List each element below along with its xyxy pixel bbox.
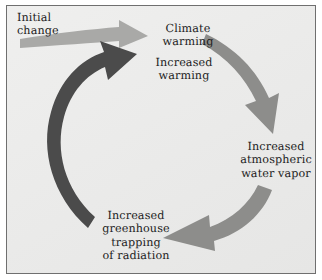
node-label-initial-change: Initial change (17, 11, 59, 38)
climate-feedback-diagram: Initial change Climate warming Increased… (0, 0, 322, 280)
warming-to-water-vapor-arrow (202, 34, 279, 134)
node-label-atmospheric-water-vapor: Increased atmospheric water vapor (236, 140, 316, 180)
node-label-greenhouse-trapping: Increased greenhouse trapping of radiati… (88, 209, 184, 263)
greenhouse-to-warming-arrow (47, 41, 137, 228)
node-label-increased-warming: Increased warming (143, 56, 225, 83)
node-label-climate-warming: Climate warming (151, 22, 225, 49)
